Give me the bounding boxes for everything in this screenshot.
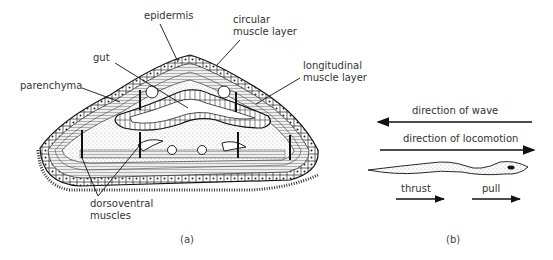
worm-eye-spot [508,166,515,170]
label-circular-muscle-1: circular [233,14,270,26]
label-direction-of-locomotion: direction of locomotion [403,133,518,145]
label-longitudinal-muscle-1: longitudinal [303,60,362,72]
caption-a: (a) [180,234,194,245]
flatworm-cross-section [38,55,318,190]
label-dorsoventral-muscles-1: dorsoventral [90,198,153,210]
label-thrust: thrust [401,183,431,195]
worm-body [368,162,528,175]
label-direction-of-wave: direction of wave [412,105,498,117]
caption-b: (b) [446,234,460,245]
label-longitudinal-muscle-2: muscle layer [303,72,367,84]
diagram-canvas [0,0,553,260]
label-dorsoventral-muscles-2: muscles [90,210,131,222]
label-circular-muscle-2: muscle layer [233,26,297,38]
label-epidermis: epidermis [144,10,193,22]
label-gut: gut [93,52,110,64]
label-pull: pull [482,183,500,195]
label-parenchyma: parenchyma [20,80,82,92]
